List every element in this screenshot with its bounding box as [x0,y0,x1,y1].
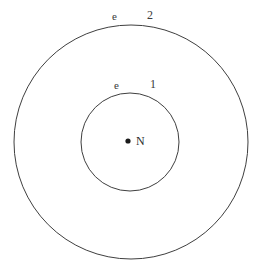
bohr-atom-diagram: e 2 e 1 N [0,0,272,278]
electron-label-shell-2: e [112,11,117,22]
electron-shell-2-circle [14,25,248,259]
shell-number-label-1: 1 [150,79,156,90]
electron-label-shell-1: e [114,80,119,91]
shell-number-label-2: 2 [147,10,153,21]
nucleus-dot-icon [125,138,130,143]
nucleus-label: N [136,135,145,147]
